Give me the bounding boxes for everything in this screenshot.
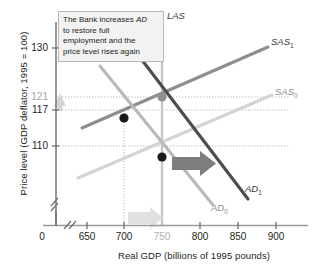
curve-label-ad1-text: AD (245, 183, 258, 194)
point-new-equilibrium (157, 92, 166, 101)
x-tick-label-800: 800 (185, 232, 215, 242)
curve-label-ad1-sub: 1 (258, 189, 262, 196)
curve-label-sas0-text: SAS (275, 86, 294, 97)
annotation-line-3: employment and the (63, 36, 159, 47)
y-axis-break-icon (51, 198, 58, 211)
point-low-price (157, 152, 166, 161)
point-initial-equilibrium (119, 113, 128, 122)
x-tick-label-750: 750 (147, 232, 177, 242)
curve-ad1 (142, 60, 248, 199)
annotation-line-1: The Bank increases AD (63, 15, 159, 26)
chart-figure: 130 121 117 110 0 650 700 750 800 850 90… (0, 0, 314, 271)
curve-label-ad0-text: AD (211, 202, 224, 213)
x-tick-label-900: 900 (261, 232, 291, 242)
x-tick-label-0: 0 (27, 232, 57, 242)
curve-label-sas1: SAS1 (271, 37, 294, 49)
x-axis-title: Real GDP (billions of 1995 pounds) (74, 250, 314, 261)
annotation-callout: The Bank increases AD to restore full em… (58, 11, 164, 62)
curve-label-las: LAS (167, 11, 185, 21)
annotation-line-1-pre: The Bank increases (63, 15, 136, 24)
curve-label-ad0: AD0 (211, 203, 228, 215)
curve-label-sas1-sub: 1 (290, 42, 294, 49)
annotation-line-4: price level rises again (63, 47, 159, 58)
annotation-line-1-emphasis: AD (136, 15, 147, 24)
x-tick-label-850: 850 (223, 232, 253, 242)
x-tick-label-650: 650 (72, 232, 102, 242)
curve-label-sas1-text: SAS (271, 36, 290, 47)
curve-label-ad0-sub: 0 (224, 208, 228, 215)
curve-label-ad1: AD1 (245, 184, 262, 196)
curve-ad0 (100, 66, 213, 205)
annotation-line-2: to restore full (63, 26, 159, 37)
x-tick-label-700: 700 (109, 232, 139, 242)
y-axis-title: Price level (GDP deflator, 1995 = 100) (18, 29, 29, 199)
ad-shift-arrow-icon (172, 151, 216, 176)
curve-label-sas0: SAS0 (275, 87, 298, 99)
curve-label-sas0-sub: 0 (294, 92, 298, 99)
